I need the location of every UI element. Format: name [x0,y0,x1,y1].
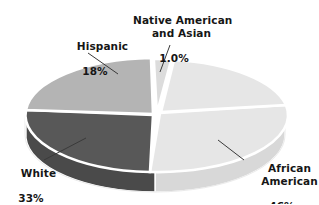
slice-label-hispanic-line1: Hispanic [77,40,128,52]
pie-chart: Native American and Asian 1.0% Hispanic … [0,0,319,204]
slice-label-native-american-asian-line2: and Asian [152,27,211,39]
slice-label-native-american-asian: Native American and Asian 1.0% [118,2,230,89]
slice-label-african-american-line1: African [268,162,311,174]
slice-value-african-american: 46% [246,200,318,205]
slice-label-white-line1: White [21,167,56,179]
slice-value-native-american-asian: 1.0% [118,52,230,64]
slice-label-native-american-asian-line1: Native American [133,14,232,26]
slice-label-hispanic: Hispanic 18% [56,28,134,102]
slice-label-white: White 33% [2,155,60,204]
slice-value-white: 33% [2,192,60,204]
slice-label-african-american: African American 46% [246,150,318,204]
slice-label-african-american-line2: American [261,175,318,187]
slice-value-hispanic: 18% [56,65,134,77]
